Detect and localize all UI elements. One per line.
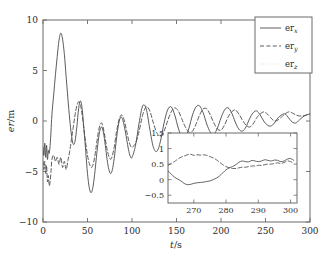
inset-y-tick-label: 0 — [159, 176, 164, 185]
inset-y-tick-label: 0.5 — [151, 160, 164, 169]
y-tick-label: 0 — [32, 116, 38, 126]
x-tick-label: 0 — [40, 226, 46, 236]
inset-plot-frame — [168, 133, 297, 203]
x-axis-label: t/s — [170, 239, 182, 250]
y-axis-label: er/m — [5, 110, 16, 132]
legend[interactable]: erxeryerz — [255, 17, 312, 73]
y-axis-label-text: er/m — [5, 110, 16, 132]
x-tick-label: 250 — [257, 226, 274, 236]
x-tick-label: 150 — [168, 226, 185, 236]
x-axis-label-text: t/s — [170, 239, 182, 250]
figure-container: 050100150200250300 −10−50510 er/m t/s er… — [0, 0, 325, 260]
legend-label-sub: z — [293, 63, 298, 71]
inset-x-tick-label: 280 — [218, 206, 233, 215]
inset-x-tick-label: 300 — [283, 206, 298, 215]
x-tick-label: 300 — [301, 226, 318, 236]
x-tick-label: 50 — [82, 226, 94, 236]
error-vs-time-line-chart: 050100150200250300 −10−50510 er/m t/s er… — [0, 0, 325, 260]
inset-axes: 270280290300 −0.500.511.5 — [145, 129, 299, 215]
y-tick-label: 10 — [27, 15, 39, 25]
legend-label-sub: x — [294, 27, 298, 35]
x-axis-label-unit: /s — [174, 239, 182, 250]
x-tick-label: 200 — [212, 226, 229, 236]
legend-label-sub: y — [293, 45, 298, 53]
legend-box — [255, 17, 312, 73]
inset-x-tick-label: 270 — [186, 206, 201, 215]
y-axis-label-unit: /m — [5, 110, 16, 122]
inset-y-tick-label: 1.5 — [151, 129, 164, 138]
y-tick-label: −5 — [25, 167, 39, 177]
y-tick-label: 5 — [32, 66, 38, 76]
inset-y-tick-label: 1 — [159, 145, 164, 154]
y-tick-label: −10 — [19, 217, 38, 227]
inset-y-tick-label: −0.5 — [145, 191, 164, 200]
x-tick-label: 100 — [123, 226, 140, 236]
inset-x-tick-label: 290 — [251, 206, 266, 215]
